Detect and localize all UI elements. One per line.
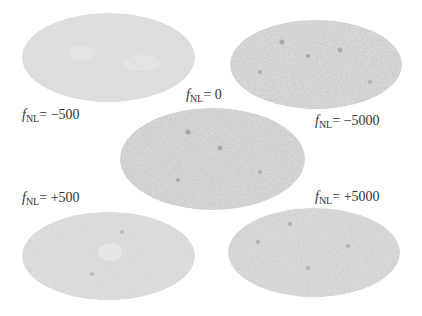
sky-map-fnl-plus-5000 <box>228 208 400 297</box>
label-subscript: NL <box>319 119 332 130</box>
label-fnl-0: fNL= 0 <box>186 88 222 102</box>
label-subscript: NL <box>26 196 39 207</box>
label-subscript: NL <box>319 195 332 206</box>
label-fnl-minus-5000: fNL= −5000 <box>315 114 380 128</box>
sky-map-fnl-plus-500 <box>22 212 195 300</box>
label-fnl-plus-500: fNL= +500 <box>22 191 80 205</box>
label-value: = −5000 <box>332 113 379 128</box>
label-value: = +5000 <box>332 189 379 204</box>
sky-map-fnl-0 <box>120 108 305 210</box>
label-value: = 0 <box>203 87 221 102</box>
sky-map-fnl-minus-500 <box>22 13 195 102</box>
label-value: = +500 <box>39 190 79 205</box>
label-fnl-plus-5000: fNL= +5000 <box>315 190 380 204</box>
label-value: = −500 <box>39 107 79 122</box>
sky-map-fnl-minus-5000 <box>230 20 402 109</box>
label-subscript: NL <box>26 113 39 124</box>
label-subscript: NL <box>190 93 203 104</box>
label-fnl-minus-500: fNL= −500 <box>22 108 80 122</box>
